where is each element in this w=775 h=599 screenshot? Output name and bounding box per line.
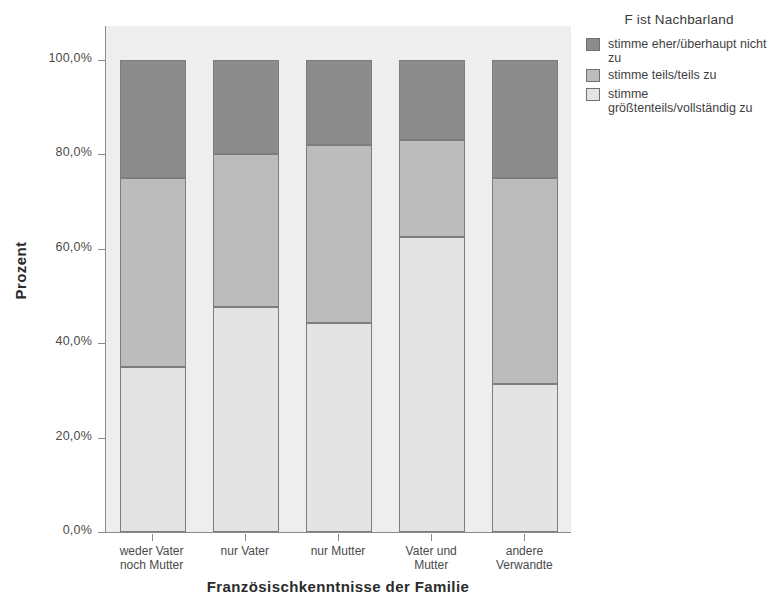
legend-entry-label: stimme teils/teils zu — [608, 68, 772, 82]
segment-agree-mostly — [120, 367, 186, 532]
y-axis-tick-label: 0,0% — [63, 523, 92, 537]
segment-disagree — [399, 60, 465, 140]
x-axis-tick-mark — [245, 534, 246, 541]
bar-stack — [399, 60, 465, 532]
segment-disagree — [213, 60, 279, 154]
bar-stack — [492, 60, 558, 532]
y-axis-tick-mark — [98, 343, 105, 344]
segment-disagree — [306, 60, 372, 145]
x-axis-title: Französischkenntnisse der Familie — [105, 578, 571, 595]
legend-entry-label: stimme eher/überhaupt nicht zu — [608, 37, 772, 65]
plot-area — [105, 26, 571, 533]
legend-title: F ist Nachbarland — [586, 12, 772, 27]
legend-entry-label: stimme größtenteils/vollständig zu — [608, 87, 772, 115]
legend-swatch-icon — [586, 88, 600, 101]
x-axis-tick-mark — [431, 534, 432, 541]
x-axis-tick-mark — [338, 534, 339, 541]
segment-agree-partly — [492, 178, 558, 384]
segment-agree-mostly — [213, 307, 279, 532]
segment-agree-partly — [306, 145, 372, 323]
bar-stack — [213, 60, 279, 532]
bar-stack — [306, 60, 372, 532]
y-axis-tick: 80,0% — [0, 154, 105, 155]
segment-agree-mostly — [399, 237, 465, 532]
legend-entry: stimme größtenteils/vollständig zu — [586, 87, 772, 115]
segment-disagree — [120, 60, 186, 178]
y-axis-tick-mark — [98, 532, 105, 533]
legend-swatch-icon — [586, 38, 600, 51]
stacked-bar-chart: Prozent 0,0%20,0%40,0%60,0%80,0%100,0% w… — [0, 0, 775, 599]
y-axis-tick-label: 40,0% — [56, 334, 92, 348]
segment-agree-partly — [120, 178, 186, 367]
y-axis-tick: 40,0% — [0, 343, 105, 344]
bar-stack — [120, 60, 186, 532]
segment-agree-mostly — [492, 384, 558, 532]
legend-entry: stimme teils/teils zu — [586, 68, 772, 84]
x-axis-tick-mark — [524, 534, 525, 541]
segment-agree-partly — [399, 140, 465, 236]
segment-agree-partly — [213, 154, 279, 306]
y-axis-tick: 60,0% — [0, 249, 105, 250]
bars-layer — [106, 60, 571, 532]
segment-disagree — [492, 60, 558, 178]
y-axis-tick: 20,0% — [0, 438, 105, 439]
legend-entry: stimme eher/überhaupt nicht zu — [586, 37, 772, 65]
y-axis-tick-mark — [98, 438, 105, 439]
y-axis-tick-mark — [98, 249, 105, 250]
y-axis-tick-label: 100,0% — [48, 51, 92, 65]
legend-swatch-icon — [586, 69, 600, 82]
legend: F ist Nachbarland stimme eher/überhaupt … — [586, 12, 772, 118]
y-axis-title: Prozent — [12, 231, 29, 311]
y-axis-tick-label: 60,0% — [56, 240, 92, 254]
y-axis-tick-mark — [98, 154, 105, 155]
y-axis-tick-mark — [98, 60, 105, 61]
segment-agree-mostly — [306, 323, 372, 532]
y-axis-tick-label: 20,0% — [56, 429, 92, 443]
legend-entries: stimme eher/überhaupt nicht zustimme tei… — [586, 37, 772, 115]
y-axis-tick-label: 80,0% — [56, 145, 92, 159]
x-axis-tick-label: andere Verwandte — [464, 545, 584, 572]
y-axis-tick: 0,0% — [0, 532, 105, 533]
y-axis-tick: 100,0% — [0, 60, 105, 61]
x-axis-tick-mark — [152, 534, 153, 541]
